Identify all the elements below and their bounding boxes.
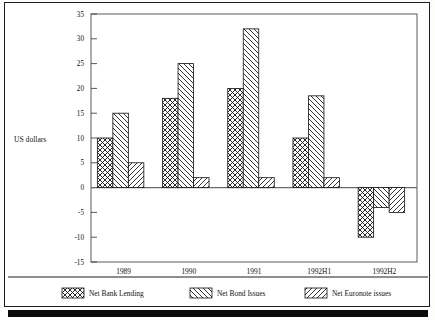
bar-chart: 35302520151050-5-10-15 1989199019911992H…: [0, 0, 435, 320]
legend-swatch: [62, 288, 84, 298]
x-axis-ticks: 1989199019911992H11992H2: [116, 267, 396, 276]
bar: [178, 64, 194, 188]
y-tick-label: 0: [80, 184, 84, 192]
legend-label: Net Euronote issues: [332, 289, 391, 298]
y-tick-label: 25: [77, 60, 85, 68]
y-tick-label: 5: [80, 159, 84, 167]
bar: [259, 178, 275, 188]
y-tick-label: 10: [77, 135, 85, 143]
bar: [389, 188, 405, 213]
bar: [374, 188, 390, 208]
scan-artifact-bar: [8, 310, 428, 317]
bar: [97, 138, 113, 188]
x-tick-label: 1992H1: [307, 267, 331, 276]
y-tick-label: -15: [74, 259, 84, 267]
bar: [293, 138, 309, 188]
x-tick-label: 1990: [181, 267, 196, 276]
chart-svg: 35302520151050-5-10-15 1989199019911992H…: [0, 0, 435, 320]
scanned-page: 35302520151050-5-10-15 1989199019911992H…: [0, 0, 435, 320]
x-tick-label: 1989: [116, 267, 131, 276]
y-tick-label: 20: [77, 85, 85, 93]
legend-swatch: [190, 288, 212, 298]
x-tick-label: 1992H2: [372, 267, 396, 276]
legend-label: Net Bond Issues: [217, 289, 266, 298]
y-tick-label: -5: [78, 209, 84, 217]
bar: [194, 178, 210, 188]
y-axis-label: US dollars: [14, 135, 46, 144]
bar: [243, 29, 259, 188]
y-tick-label: -10: [74, 234, 84, 242]
bar: [308, 96, 324, 188]
y-tick-label: 15: [77, 110, 85, 118]
bar: [163, 98, 179, 187]
bar: [113, 113, 129, 187]
legend-label: Net Bank Lending: [89, 289, 144, 298]
bar: [128, 163, 144, 188]
y-tick-label: 30: [77, 35, 85, 43]
legend-swatch: [305, 288, 327, 298]
y-tick-label: 35: [77, 11, 85, 19]
bar: [228, 88, 244, 187]
bar: [324, 178, 340, 188]
x-tick-label: 1991: [247, 267, 262, 276]
chart-legend: Net Bank LendingNet Bond IssuesNet Euron…: [62, 288, 391, 298]
bar: [358, 188, 374, 238]
